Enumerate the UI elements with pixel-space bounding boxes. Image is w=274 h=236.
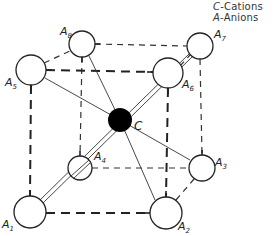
cation-sphere bbox=[108, 108, 132, 132]
label-cation: C bbox=[134, 119, 143, 133]
anion-a6 bbox=[153, 58, 183, 88]
label-a6: A6 bbox=[181, 78, 195, 93]
label-a8: A8 bbox=[59, 25, 73, 40]
label-a4: A4 bbox=[93, 150, 106, 165]
label-a5: A5 bbox=[4, 76, 18, 91]
anion-a1 bbox=[14, 196, 46, 228]
label-a1: A1 bbox=[1, 218, 14, 233]
label-a2: A2 bbox=[177, 220, 191, 235]
anion-a3 bbox=[189, 155, 215, 181]
front-edges bbox=[30, 70, 168, 213]
crystal-structure-diagram: C A1 A2 A3 A4 A5 A6 A7 A8 bbox=[0, 0, 274, 236]
anion-a8 bbox=[69, 31, 95, 57]
label-a3: A3 bbox=[214, 156, 227, 171]
label-a7: A7 bbox=[213, 28, 227, 43]
anion-a7 bbox=[187, 33, 213, 59]
anion-a5 bbox=[16, 55, 46, 85]
